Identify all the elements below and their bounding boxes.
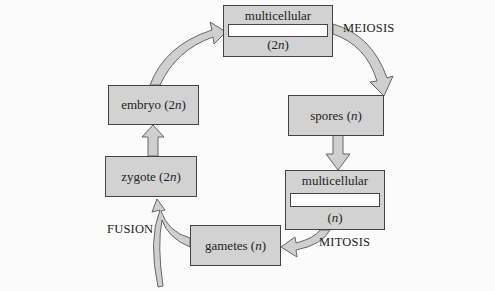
arrow-zygote-to-embryo	[142, 125, 164, 156]
node-label: multicellular	[302, 173, 368, 189]
label-mitosis: MITOSIS	[319, 235, 370, 250]
label-fusion: FUSION	[107, 222, 153, 237]
node-zygote: zygote (2n)	[105, 156, 197, 197]
blank-field	[228, 24, 328, 37]
arrow-fusion	[152, 199, 190, 287]
arrow-embryo-to-sporophyte	[150, 22, 226, 85]
node-label: multicellular	[245, 8, 311, 24]
node-multicellular-haploid: multicellular (n)	[285, 170, 385, 230]
ploidy-label: (n)	[327, 210, 342, 226]
blank-field	[290, 193, 380, 207]
node-spores: spores (n)	[288, 95, 384, 136]
node-embryo: embryo (2n)	[108, 85, 199, 125]
arrow-spores-to-gametophyte	[326, 135, 350, 170]
ploidy-label: (2n)	[267, 37, 289, 53]
node-multicellular-diploid: multicellular (2n)	[223, 5, 333, 57]
label-meiosis: MEIOSIS	[343, 21, 394, 36]
node-gametes: gametes (n)	[190, 225, 281, 266]
